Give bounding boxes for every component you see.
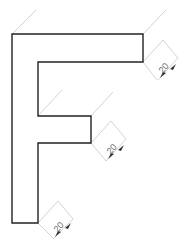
dimension-label-middle: 20 <box>105 142 119 156</box>
dimension-label-top: 20 <box>157 61 171 75</box>
f-outline <box>12 34 143 223</box>
dimension-label-stem: 20 <box>52 220 66 234</box>
f-shape-diagram: 20 20 20 <box>0 0 190 239</box>
extension-lines <box>12 10 178 239</box>
